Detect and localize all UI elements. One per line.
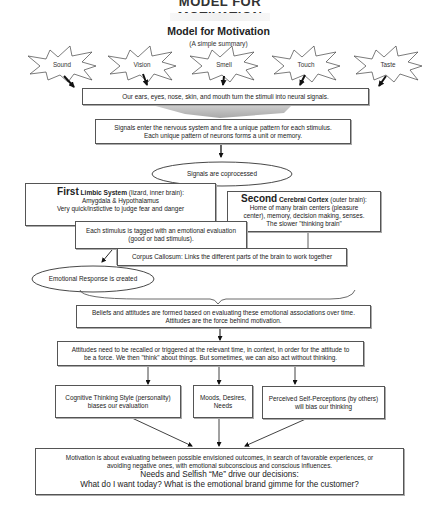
motivation-line2: avoiding negative ones, with emotional s…: [107, 462, 332, 470]
sense-label-taste: Taste: [368, 61, 408, 68]
sense-label-sound: Sound: [42, 61, 82, 68]
first-lead: First: [57, 186, 79, 197]
stimuli-text: Our ears, eyes, nose, skin, and mouth tu…: [122, 93, 328, 101]
arrow-cognitive-to-motivation: [132, 418, 192, 446]
tagged-evaluation-box: Each stimulus is tagged with an emotiona…: [75, 221, 247, 249]
moods-line1: Moods, Desires,: [200, 394, 246, 402]
second-line4: The slower "thinking brain": [266, 220, 342, 228]
motivation-line3: Needs and Selfish “Me” drive our decisio…: [140, 470, 298, 480]
attitudes-box: Attitudes need to be recalled or trigger…: [57, 341, 364, 366]
second-line3: center), memory, decision making, senses…: [244, 212, 365, 220]
cognitive-line2: biases our evaluation: [88, 402, 148, 410]
signals-line1: Signals enter the nervous system and fir…: [114, 124, 331, 132]
sense-label-smell: Smell: [204, 61, 244, 68]
self-perceptions-box: Perceived Self-Perceptions (by others) w…: [262, 386, 385, 419]
beliefs-line2: Attitudes are the force behind motivatio…: [165, 317, 281, 325]
first-system: Limbic System: [81, 189, 128, 196]
signals-box: Signals enter the nervous system and fir…: [95, 119, 351, 144]
motivation-line1: Motivation is about evaluating between p…: [66, 454, 373, 462]
second-system: Cerebral Cortex: [279, 196, 328, 203]
first-note: (lizard, inner brain):: [127, 189, 184, 196]
corpus-text: Corpus Callosum: Links the different par…: [132, 253, 332, 261]
moods-box: Moods, Desires, Needs: [193, 385, 253, 418]
arrow-to-emotional-response: [102, 250, 112, 262]
beliefs-line1: Beliefs and attitudes are formed based o…: [92, 309, 355, 317]
arrow-perceived-to-motivation: [245, 418, 308, 446]
corpus-callosum-box: Corpus Callosum: Links the different par…: [117, 248, 347, 266]
coprocessed-label: Signals are coprocessed: [152, 170, 292, 177]
tagged-line1: Each stimulus is tagged with an emotiona…: [86, 227, 236, 235]
funnel-shape: [152, 105, 292, 118]
cognitive-line1: Cognitive Thinking Style (personality): [65, 394, 170, 402]
first-limbic-box: First Limbic System (lizard, inner brain…: [25, 183, 216, 226]
first-line2: Amygdala & Hypothalamus: [82, 197, 159, 205]
perceived-line2: will bias our thinking: [295, 403, 352, 411]
second-note: (outer brain):: [329, 196, 367, 203]
arrow-smell: [223, 76, 224, 85]
attitudes-line1: Attitudes need to be recalled or trigger…: [72, 346, 349, 354]
second-heading: Second Cerebral Cortex (outer brain):: [241, 195, 367, 204]
cognitive-style-box: Cognitive Thinking Style (personality) b…: [55, 385, 181, 418]
second-cortex-box: Second Cerebral Cortex (outer brain): Ho…: [227, 191, 381, 232]
brace-shape: [80, 290, 355, 304]
first-heading: First Limbic System (lizard, inner brain…: [57, 188, 184, 197]
beliefs-box: Beliefs and attitudes are formed based o…: [76, 305, 371, 328]
motivation-line4: What do I want today? What is the emotio…: [80, 480, 359, 490]
moods-line2: Needs: [214, 402, 232, 410]
sense-label-touch: Touch: [286, 61, 326, 68]
attitudes-line2: be a force. We then "think" about things…: [84, 354, 337, 362]
second-line2: Home of many brain centers (pleasure: [250, 204, 359, 212]
perceived-line1: Perceived Self-Perceptions (by others): [269, 395, 378, 403]
signals-line2: Each unique pattern of neurons forms a u…: [144, 132, 302, 140]
sense-label-vision: Vision: [122, 61, 162, 68]
second-lead: Second: [241, 193, 277, 204]
emotional-response-label: Emotional Response is created: [32, 275, 154, 282]
tagged-line2: (good or bad stimulus).: [128, 235, 193, 243]
first-line3: Very quick/instictive to judge fear and …: [57, 205, 184, 213]
motivation-box: Motivation is about evaluating between p…: [35, 448, 404, 495]
stimuli-box: Our ears, eyes, nose, skin, and mouth tu…: [82, 88, 369, 105]
